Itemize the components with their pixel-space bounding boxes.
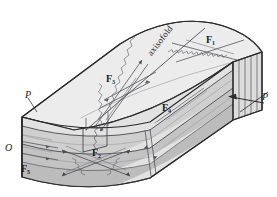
block-diagram-canvas	[0, 0, 277, 197]
label-stress-left: P	[25, 90, 31, 100]
label-stress-right: P	[262, 92, 268, 102]
label-fracture-f5: F5	[21, 164, 30, 174]
label-f1-subscript: 1	[212, 40, 215, 46]
label-f5-subscript: 5	[27, 169, 30, 175]
label-f4-subscript: 4	[168, 108, 171, 114]
block-end-panel	[233, 52, 262, 120]
label-fracture-f3: F3	[106, 74, 115, 84]
label-fracture-f4: F4	[162, 103, 171, 113]
label-f3-subscript: 3	[112, 79, 115, 85]
block-diagram-figure: axisofold F1 F3 F4 F2 F5 P P O	[0, 0, 277, 197]
label-f2-subscript: 2	[98, 153, 101, 159]
label-fracture-f2: F2	[92, 148, 101, 158]
label-fracture-f1: F1	[206, 35, 215, 45]
label-origin: O	[5, 143, 12, 153]
